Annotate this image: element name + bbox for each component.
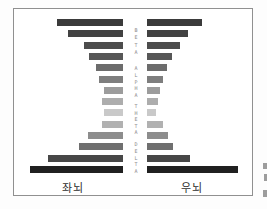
band-letter: A bbox=[134, 93, 137, 98]
bar-left-row-3 bbox=[84, 42, 123, 49]
band-label-delta: DELTA bbox=[131, 142, 141, 174]
band-label-theta: THETA bbox=[131, 104, 141, 135]
bar-right-row-13 bbox=[147, 155, 190, 162]
band-letter: D bbox=[134, 142, 137, 147]
bar-right-row-5 bbox=[147, 64, 167, 71]
band-letter: A bbox=[134, 66, 137, 71]
band-letter: H bbox=[134, 111, 137, 116]
bar-right-row-11 bbox=[147, 132, 168, 139]
bar-right-row-1 bbox=[147, 19, 202, 26]
edge-artifact bbox=[263, 190, 267, 197]
scanned-chart-page: BETAALPHATHETADELTA 좌뇌 우뇌 bbox=[0, 0, 267, 209]
bar-left-row-1 bbox=[57, 19, 123, 26]
band-letter: A bbox=[134, 130, 137, 135]
right-axis-label: 우뇌 bbox=[170, 179, 214, 195]
bar-right-row-10 bbox=[147, 121, 163, 128]
band-letter: P bbox=[134, 80, 137, 85]
bar-left-row-8 bbox=[102, 98, 123, 105]
bar-left-row-7 bbox=[104, 87, 123, 94]
bar-left-row-5 bbox=[96, 64, 123, 71]
bar-left-row-9 bbox=[104, 109, 123, 116]
band-letter: L bbox=[134, 156, 137, 161]
edge-artifact bbox=[263, 163, 267, 169]
bar-left-row-11 bbox=[88, 132, 123, 139]
bar-right-row-8 bbox=[147, 98, 158, 105]
bar-left-row-6 bbox=[99, 76, 123, 83]
bar-right-row-9 bbox=[147, 109, 156, 116]
band-letter: T bbox=[134, 124, 137, 129]
bar-right-row-7 bbox=[147, 87, 160, 94]
band-letter: A bbox=[134, 50, 137, 55]
bar-left-row-14 bbox=[30, 166, 123, 173]
band-letter: L bbox=[134, 73, 137, 78]
bar-right-row-12 bbox=[147, 143, 173, 150]
bar-left-row-2 bbox=[68, 30, 123, 37]
band-label-beta: BETA bbox=[131, 28, 141, 55]
bar-right-row-2 bbox=[147, 30, 188, 37]
bar-right-row-6 bbox=[147, 76, 163, 83]
band-letter: T bbox=[134, 162, 137, 167]
bar-left-row-10 bbox=[102, 121, 123, 128]
band-letter: H bbox=[134, 86, 137, 91]
bar-right-row-4 bbox=[147, 53, 172, 60]
bar-left-row-13 bbox=[48, 155, 123, 162]
band-letter: B bbox=[134, 28, 137, 33]
bar-left-row-12 bbox=[79, 143, 123, 150]
band-label-alpha: ALPHA bbox=[131, 66, 141, 98]
band-letter: E bbox=[134, 149, 137, 154]
band-letter: T bbox=[134, 104, 137, 109]
left-axis-label: 좌뇌 bbox=[51, 179, 95, 195]
bar-right-row-3 bbox=[147, 42, 180, 49]
band-letter: T bbox=[134, 43, 137, 48]
band-letter: A bbox=[134, 169, 137, 174]
edge-artifact bbox=[264, 174, 267, 181]
band-letter: E bbox=[134, 117, 137, 122]
bar-right-row-14 bbox=[147, 166, 238, 173]
band-letter: E bbox=[134, 35, 137, 40]
bar-left-row-4 bbox=[89, 53, 123, 60]
